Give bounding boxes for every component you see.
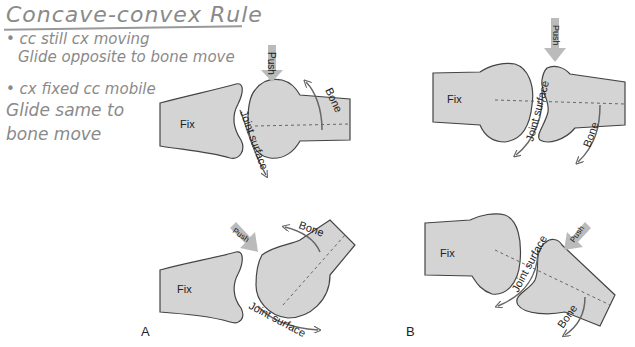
fix-label-a-top: Fix [180,118,195,130]
panel-label-a: A [141,324,150,339]
fix-label-b-bottom: Fix [440,247,455,259]
fix-label-a-bottom: Fix [177,283,192,295]
fixed-concave-bone [160,252,243,323]
moving-concave-bone [539,66,625,142]
push-label-a-top: Push [266,52,277,75]
fixed-concave-bone [160,84,243,159]
push-label-b-top: Push [551,25,561,46]
panel-label-b: B [406,324,415,339]
fix-label-b-top: Fix [447,93,462,105]
diagram-canvas: Fix Push Bone Joint surface Fix Push Bon… [0,0,635,347]
